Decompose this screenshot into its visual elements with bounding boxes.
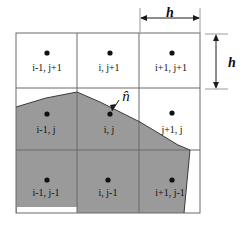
cell-center-dot	[107, 111, 112, 116]
cell-center-dot	[105, 177, 110, 182]
cell-label-i-j+1: i, j+1	[98, 62, 119, 73]
cell-center-dot	[169, 177, 174, 182]
h-vertical-label: h	[228, 55, 236, 71]
cell-center-dot	[169, 110, 174, 115]
bottom-left-white-strip	[17, 207, 77, 213]
cell-center-dot	[169, 50, 174, 55]
cell-label-i-1-j: i-1, j	[37, 124, 56, 135]
h-vertical-bottom-arrowhead	[213, 82, 219, 89]
cell-center-dot	[44, 50, 49, 55]
cell-label-i+1-j-1: i+1, j-1	[155, 187, 185, 198]
cell-center-dot	[44, 177, 49, 182]
cell-label-i-j: i, j	[104, 124, 115, 135]
cell-label-i-1-j+1: i-1, j+1	[32, 62, 62, 73]
h-horizontal-label: h	[166, 5, 174, 21]
cell-label-i+1-j: j+1, j	[161, 124, 182, 135]
unit-normal-label: n̂	[122, 88, 130, 105]
cell-label-i+1-j+1: i+1, j+1	[155, 62, 187, 73]
cell-center-dot	[107, 50, 112, 55]
h-horizontal-left-arrowhead	[140, 15, 147, 21]
interface-cell-diagram: i-1, j+1 i, j+1 i+1, j+1 i-1, j i, j j+1…	[0, 0, 247, 226]
h-horizontal-right-arrowhead	[193, 15, 200, 21]
h-vertical-top-arrowhead	[213, 34, 219, 41]
cell-label-i-j-1: i, j-1	[99, 187, 118, 198]
cell-label-i-1-j-1: i-1, j-1	[32, 187, 59, 198]
cell-center-dot	[44, 111, 49, 116]
